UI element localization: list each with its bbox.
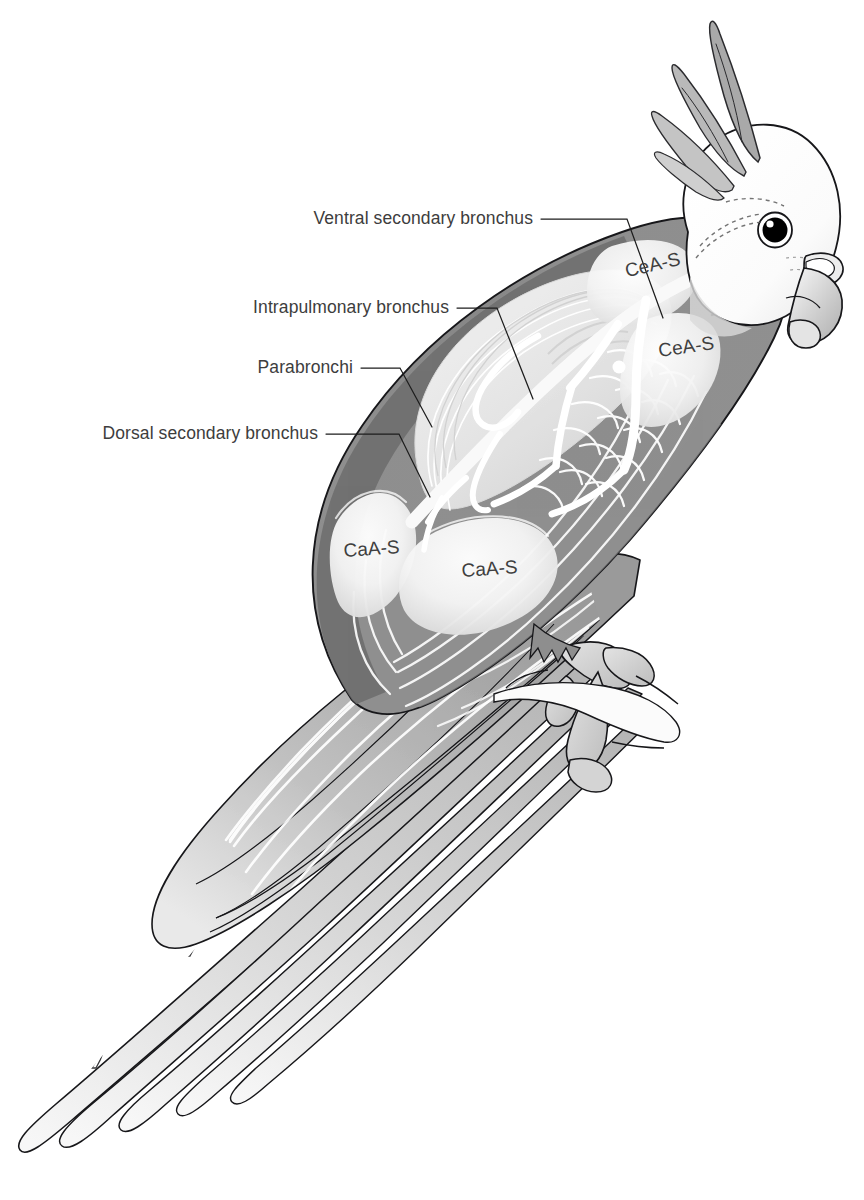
bird-anatomy-illustration: Ventral secondary bronchus Intrapulmonar… bbox=[0, 0, 864, 1200]
crest bbox=[651, 21, 760, 200]
label-dorsal-secondary-bronchus: Dorsal secondary bronchus bbox=[102, 423, 318, 443]
label-parabronchi: Parabronchi bbox=[258, 357, 353, 377]
label-ventral-secondary-bronchus: Ventral secondary bronchus bbox=[313, 208, 533, 228]
air-sac-label-caas-caudal-ventral: CaA-S bbox=[461, 556, 518, 581]
eye bbox=[758, 213, 792, 248]
figure-canvas: Ventral secondary bronchus Intrapulmonar… bbox=[0, 0, 864, 1200]
label-intrapulmonary-bronchus: Intrapulmonary bronchus bbox=[253, 297, 449, 317]
air-sac-label-caas-caudal-dorsal: CaA-S bbox=[343, 536, 400, 561]
